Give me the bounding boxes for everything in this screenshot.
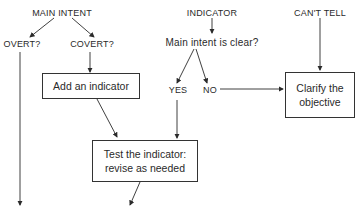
yes-label: YES [169, 85, 188, 95]
test-line-2: revise as needed [105, 161, 185, 175]
clarify-line-1: Clarify the [296, 81, 343, 95]
indicator-label: INDICATOR [187, 8, 237, 18]
no-label: NO [203, 85, 217, 95]
add-indicator-box: Add an indicator [42, 73, 140, 99]
main-intent-label: MAIN INTENT [32, 8, 92, 18]
cant-tell-label: CAN'T TELL [294, 8, 346, 18]
main-intent-clear-question: Main intent is clear? [165, 37, 258, 48]
arrow-main-to-overt [30, 18, 54, 37]
test-indicator-box: Test the indicator: revise as needed [92, 140, 198, 182]
covert-label: COVERT? [70, 39, 114, 49]
clarify-objective-box: Clarify the objective [285, 72, 355, 118]
clarify-line-2: objective [299, 95, 340, 109]
arrow-test-down [130, 182, 140, 205]
add-indicator-text: Add an indicator [53, 79, 129, 93]
arrow-question-to-yes [177, 49, 194, 83]
arrow-add-to-test [97, 99, 117, 137]
arrow-question-to-no [196, 49, 207, 83]
overt-label: OVERT? [3, 39, 40, 49]
arrow-main-to-covert [72, 18, 94, 37]
test-line-1: Test the indicator: [104, 147, 186, 161]
